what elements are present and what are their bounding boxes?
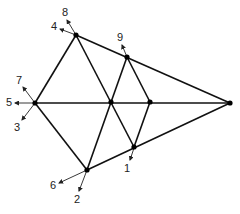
node-center: [108, 99, 113, 104]
edge-upper-midright: [127, 57, 150, 102]
node-top: [73, 32, 78, 37]
arrow-icon: [22, 103, 35, 120]
point-label: 9: [117, 31, 123, 43]
node-bottom: [84, 167, 89, 172]
point-label: 5: [6, 96, 12, 108]
edge-bottom-upper: [87, 57, 127, 170]
edge-midright-lower: [134, 102, 150, 147]
labels-group: 123456789: [6, 6, 130, 205]
point-label: 1: [124, 162, 130, 174]
node-apex: [227, 100, 232, 105]
node-upper: [124, 54, 129, 59]
diagram-canvas: 123456789: [0, 0, 240, 214]
arrow-icon: [67, 20, 76, 35]
node-left: [32, 100, 37, 105]
node-lower: [131, 144, 136, 149]
point-label: 6: [50, 179, 56, 191]
edges-group: [35, 35, 230, 170]
point-label: 3: [14, 121, 20, 133]
node-midright: [147, 99, 152, 104]
geometric-graph: 123456789: [0, 0, 240, 214]
point-label: 8: [62, 6, 68, 18]
point-label: 4: [51, 20, 57, 32]
arrow-icon: [23, 87, 35, 103]
point-label: 7: [16, 74, 22, 86]
edge-top-apex: [76, 35, 230, 103]
point-label: 2: [74, 193, 80, 205]
edge-bottom-apex: [87, 103, 230, 170]
edge-left-top: [35, 35, 76, 103]
edge-left-bottom: [35, 103, 87, 170]
arrows-group: [15, 20, 134, 191]
